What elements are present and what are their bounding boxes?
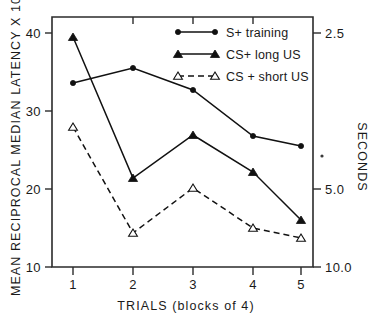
bottom-tick-label-5: 5 [297, 277, 305, 292]
data-point [129, 229, 138, 236]
data-point [130, 65, 135, 70]
bottom-tick-label-2: 2 [129, 277, 137, 292]
left-tick-label-40: 40 [26, 26, 41, 41]
series-line-cs-plus-short-us [73, 127, 301, 238]
y-axis-title: MEAN RECIPROCAL MEDIAN LATENCY X 100 [9, 0, 23, 296]
chart-svg: 40 30 20 10 2.5 5.0 10.0 [0, 0, 370, 316]
data-point [298, 143, 303, 148]
bottom-tick-label-3: 3 [189, 277, 197, 292]
legend-item-s-plus-training[interactable]: S+ training [175, 26, 288, 40]
data-point [250, 133, 255, 138]
data-point [248, 168, 257, 176]
right-axis-tick-labels: 2.5 5.0 10.0 [325, 26, 352, 275]
y2-axis-title: SECONDS [355, 122, 369, 192]
x-axis-title: TRIALS (blocks of 4) [117, 299, 254, 313]
legend-item-cs-plus-short-us[interactable]: CS + short US [174, 70, 309, 84]
legend-label-s-plus-training: S+ training [226, 26, 288, 40]
data-point [188, 131, 197, 139]
legend-label-cs-plus-long-us: CS+ long US [226, 48, 301, 62]
page-speck-artifact [320, 154, 323, 157]
right-tick-label-5-0: 5.0 [325, 182, 344, 197]
chart-legend: S+ training CS+ long US CS + short US [173, 26, 308, 84]
bottom-axis-tick-labels: 1 2 3 4 5 [69, 277, 305, 292]
bottom-tick-label-4: 4 [249, 277, 257, 292]
series-cs-plus-short-us [69, 123, 306, 241]
data-point [68, 33, 77, 41]
legend-marker-filled-circle [212, 29, 217, 34]
data-point [70, 80, 75, 85]
right-tick-label-10-0: 10.0 [325, 260, 352, 275]
bottom-tick-label-1: 1 [69, 277, 77, 292]
data-point [190, 87, 195, 92]
data-point [189, 184, 198, 191]
legend-marker-filled-circle [175, 29, 180, 34]
legend-label-cs-plus-short-us: CS + short US [226, 70, 309, 84]
left-tick-label-10: 10 [26, 260, 41, 275]
chart-figure: 40 30 20 10 2.5 5.0 10.0 [0, 0, 370, 316]
left-tick-label-20: 20 [26, 182, 41, 197]
right-tick-label-2-5: 2.5 [325, 26, 344, 41]
series-line-cs-plus-long-us [73, 37, 301, 220]
data-point [69, 123, 78, 130]
left-axis-ticks [45, 33, 52, 267]
legend-item-cs-plus-long-us[interactable]: CS+ long US [173, 48, 300, 62]
left-tick-label-30: 30 [26, 104, 41, 119]
right-axis-ticks [313, 33, 321, 267]
left-axis-tick-labels: 40 30 20 10 [26, 26, 41, 275]
